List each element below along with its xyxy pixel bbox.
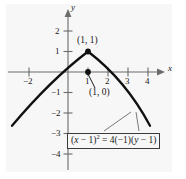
x-tick-label-neg2: −2 [23,77,33,86]
x-tick-label-1: 1 [85,77,90,86]
y-tick-label-2: 2 [55,27,60,36]
vertex-point-marker [85,49,91,55]
x-tick-label-3: 3 [125,77,130,86]
equation-rhs-start: = 4(−1)( [100,135,134,145]
equation-rhs-end: − 1) [138,135,156,145]
equation-callout-box: (x − 1)2 = 4(−1)(y − 1) [67,133,160,149]
x-axis-label: x [168,64,172,73]
x-tick-label-4: 4 [145,77,150,86]
focus-point-label: (1, 0) [89,88,110,98]
x-tick-label-2: 2 [105,77,110,86]
y-tick-label-1: 1 [55,47,60,56]
y-tick-label-neg3: −3 [51,129,61,138]
parabola-figure: x y −2 1 2 3 4 2 1 −1 −2 −3 −4 (1, 1) (1… [0,0,186,179]
equation-callout-leader-lines [104,112,139,131]
y-tick-label-neg2: −2 [51,109,61,118]
parabola-curve [12,52,150,126]
equation-lhs-minus: − 1) [78,135,96,145]
vertex-point-label: (1, 1) [77,36,98,46]
y-tick-label-neg4: −4 [51,150,61,159]
y-axis-label: y [71,3,75,12]
y-tick-label-neg1: −1 [51,88,61,97]
